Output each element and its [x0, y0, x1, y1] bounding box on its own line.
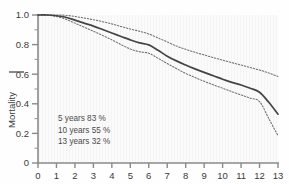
- y-tick-label: 0.6: [16, 69, 29, 80]
- annotation-line: 13 years 32 %: [58, 137, 110, 146]
- x-tick-label: 13: [273, 170, 284, 181]
- y-tick-label: 0.2: [16, 128, 29, 139]
- x-tick-label: 12: [254, 170, 265, 181]
- x-tick-label: 0: [35, 170, 40, 181]
- mortality-survival-chart: 1.00.80.60.40.20 012345678910111213 Mort…: [0, 0, 289, 184]
- annotation-line: 5 years 83 %: [58, 114, 106, 123]
- y-tick-label: 0.8: [16, 39, 29, 50]
- annotation-block: 5 years 83 %10 years 55 %13 years 32 %: [58, 114, 110, 146]
- x-tick-label: 4: [109, 170, 114, 181]
- x-axis-ticks: 012345678910111213: [35, 163, 283, 181]
- y-axis-title: Mortality: [6, 92, 17, 128]
- y-tick-label: 1.0: [16, 9, 29, 20]
- x-tick-label: 6: [146, 170, 151, 181]
- x-tick-label: 9: [202, 170, 207, 181]
- annotation-line: 10 years 55 %: [58, 126, 110, 135]
- x-tick-label: 5: [128, 170, 133, 181]
- survival-curve-figure: 1.00.80.60.40.20 012345678910111213 Mort…: [0, 0, 289, 184]
- x-tick-label: 2: [72, 170, 77, 181]
- x-tick-label: 8: [183, 170, 188, 181]
- x-tick-label: 11: [236, 170, 246, 181]
- x-tick-label: 7: [165, 170, 170, 181]
- x-tick-label: 1: [54, 170, 59, 181]
- y-tick-label: 0: [24, 157, 29, 168]
- y-tick-label: 0.4: [16, 98, 29, 109]
- x-tick-label: 10: [217, 170, 228, 181]
- x-tick-label: 3: [91, 170, 96, 181]
